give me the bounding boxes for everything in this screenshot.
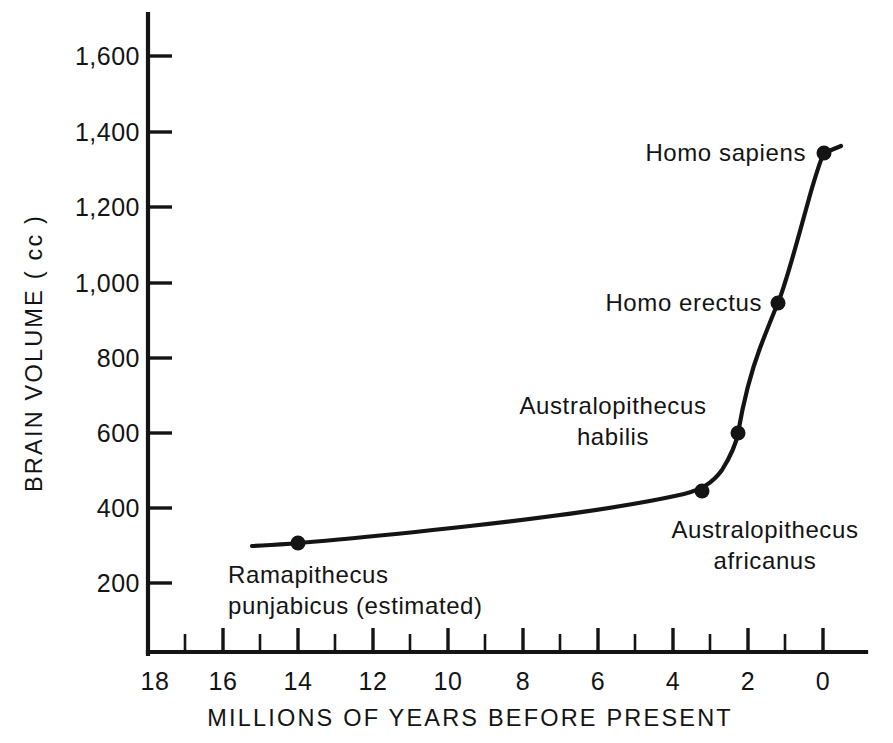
annotation-africanus-line2: africanus bbox=[714, 547, 817, 574]
datapoint-erectus bbox=[771, 296, 786, 311]
datapoint-ramapithecus bbox=[291, 536, 306, 551]
datapoint-sapiens bbox=[817, 146, 832, 161]
y-tick-label-1200: 1,200 bbox=[75, 193, 140, 221]
y-tick-label-600: 600 bbox=[97, 419, 140, 447]
y-axis-group: 1,600 1,400 1,200 1,000 800 600 400 200 … bbox=[21, 14, 172, 654]
x-tick-label-10: 10 bbox=[434, 667, 463, 695]
annotation-habilis-line2: habilis bbox=[577, 423, 649, 450]
x-tick-label-0: 0 bbox=[816, 667, 830, 695]
x-tick-label-8: 8 bbox=[516, 667, 530, 695]
x-tick-label-4: 4 bbox=[666, 667, 680, 695]
x-tick-label-18: 18 bbox=[141, 667, 170, 695]
y-tick-label-1400: 1,400 bbox=[75, 118, 140, 146]
x-tick-label-16: 16 bbox=[209, 667, 238, 695]
y-tick-label-1000: 1,000 bbox=[75, 269, 140, 297]
x-tick-label-2: 2 bbox=[741, 667, 755, 695]
y-tick-label-200: 200 bbox=[97, 569, 140, 597]
x-tick-label-6: 6 bbox=[591, 667, 605, 695]
data-series-group bbox=[252, 146, 841, 551]
y-tick-label-800: 800 bbox=[97, 344, 140, 372]
annotation-ramapithecus-line1: Ramapithecus bbox=[228, 561, 389, 588]
x-axis-group: 18 16 14 12 10 8 6 4 2 0 MILLIONS OF YEA… bbox=[141, 628, 866, 731]
annotation-homo-sapiens: Homo sapiens bbox=[645, 139, 806, 166]
x-axis-title: MILLIONS OF YEARS BEFORE PRESENT bbox=[207, 705, 733, 731]
annotation-africanus-line1: Australopithecus bbox=[671, 516, 858, 543]
brain-volume-curve bbox=[252, 146, 841, 546]
y-tick-label-400: 400 bbox=[97, 494, 140, 522]
annotation-ramapithecus-line2: punjabicus (estimated) bbox=[228, 592, 483, 619]
y-axis-title: BRAIN VOLUME ( cc ) bbox=[21, 214, 47, 492]
x-tick-label-14: 14 bbox=[284, 667, 313, 695]
chart-svg: 1,600 1,400 1,200 1,000 800 600 400 200 … bbox=[0, 0, 893, 743]
x-tick-label-12: 12 bbox=[359, 667, 388, 695]
annotation-habilis-line1: Australopithecus bbox=[519, 392, 706, 419]
brain-volume-chart-figure: 1,600 1,400 1,200 1,000 800 600 400 200 … bbox=[0, 0, 893, 743]
y-tick-label-1600: 1,600 bbox=[75, 42, 140, 70]
annotations-group: Homo sapiens Homo erectus Australopithec… bbox=[228, 139, 859, 619]
annotation-homo-erectus: Homo erectus bbox=[605, 289, 762, 316]
datapoint-africanus bbox=[695, 484, 710, 499]
datapoint-habilis bbox=[731, 426, 746, 441]
